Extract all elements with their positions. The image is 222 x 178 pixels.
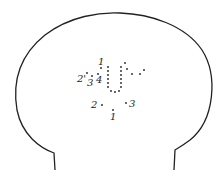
electrode-dot — [114, 91, 116, 93]
label-top-2: 2' — [76, 73, 86, 84]
electrode-dot — [126, 68, 128, 70]
electrode-dot — [107, 74, 109, 76]
electrode-dot — [107, 78, 109, 80]
electrode-dot — [120, 78, 122, 80]
label-low-2: 2 — [90, 99, 97, 110]
electrode-dot — [101, 104, 103, 106]
electrode-dot — [110, 90, 112, 92]
label-low-3: 3 — [129, 98, 135, 109]
electrode-dot — [139, 73, 141, 75]
electrode-dot — [107, 66, 109, 68]
electrode-dot — [107, 70, 109, 72]
electrode-dot — [120, 66, 122, 68]
electrode-dot — [131, 73, 133, 75]
electrode-dot — [125, 102, 127, 104]
label-low-1: 1 — [110, 111, 116, 122]
electrode-dot — [143, 69, 145, 71]
label-top-1: 1 — [98, 56, 104, 67]
electrode-dot — [118, 90, 120, 92]
electrode-labels: 12'34231 — [76, 56, 135, 122]
electrode-dot — [107, 86, 109, 88]
electrode-dot — [107, 82, 109, 84]
electrode-dot — [120, 70, 122, 72]
head-outline — [16, 13, 212, 170]
electrode-dot — [100, 67, 102, 69]
label-top-4: 4 — [95, 74, 102, 85]
head-diagram: 12'34231 — [0, 0, 222, 178]
electrode-dot — [120, 82, 122, 84]
label-top-3: 3 — [87, 77, 93, 88]
electrode-dot — [120, 86, 122, 88]
electrode-dot — [86, 72, 88, 74]
electrode-dot — [120, 74, 122, 76]
electrode-dot — [124, 62, 126, 64]
